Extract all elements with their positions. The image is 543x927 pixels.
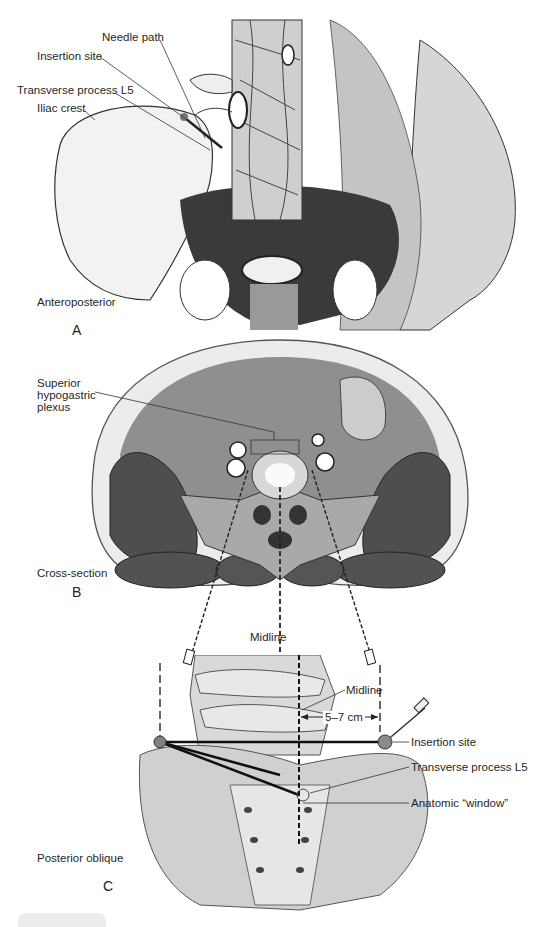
panel-c-posterior-oblique: Midline 5–7 cm Insertion site Transverse… bbox=[0, 655, 543, 924]
panel-b-cross-section: Superior hypogastric plexus Cross-sectio… bbox=[0, 335, 543, 670]
view-label-cross-section: Cross-section bbox=[37, 567, 107, 580]
label-anatomic-window: Anatomic “window” bbox=[411, 797, 508, 810]
panel-a-anteroposterior: Needle path Insertion site Transverse pr… bbox=[0, 0, 543, 335]
label-insertion-site: Insertion site bbox=[37, 50, 102, 63]
label-insertion-site-c: Insertion site bbox=[411, 736, 476, 749]
panel-c-illustration bbox=[0, 655, 543, 924]
view-label-anteroposterior: Anteroposterior bbox=[37, 296, 116, 309]
label-transverse-process-l5-c: Transverse process L5 bbox=[411, 761, 528, 774]
label-superior-hypogastric-plexus-line3: plexus bbox=[37, 401, 70, 414]
panel-b-illustration bbox=[0, 335, 543, 670]
label-transverse-process-l5: Transverse process L5 bbox=[17, 84, 134, 97]
label-needle-path: Needle path bbox=[102, 31, 164, 44]
label-midline-b: Midline bbox=[250, 631, 286, 644]
label-midline-c: Midline bbox=[346, 684, 382, 697]
label-distance-5-7cm: 5–7 cm bbox=[323, 711, 365, 724]
panel-letter-b: B bbox=[72, 584, 81, 600]
panel-letter-c: C bbox=[103, 878, 113, 894]
label-iliac-crest: Iliac crest bbox=[37, 102, 86, 115]
view-label-posterior-oblique: Posterior oblique bbox=[37, 852, 123, 865]
figure-caption-tab bbox=[18, 913, 106, 927]
